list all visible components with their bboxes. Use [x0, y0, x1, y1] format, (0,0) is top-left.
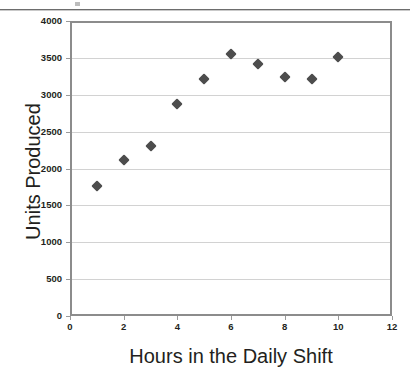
data-point-marker: [145, 140, 156, 151]
data-point-marker: [199, 73, 210, 84]
y-tick-label: 1500: [18, 200, 62, 210]
x-tick-mark: [392, 316, 393, 320]
x-tick-mark: [338, 316, 339, 320]
y-tick-label: 500: [18, 274, 62, 284]
x-tick-mark: [70, 316, 71, 320]
x-tick-label: 2: [109, 322, 139, 332]
x-tick-label: 8: [270, 322, 300, 332]
plot-area: 05001000150020002500300035004000 0246810…: [70, 21, 392, 316]
y-tick-label: 3000: [18, 90, 62, 100]
plot-frame-top-edge: [70, 21, 392, 23]
x-tick-label: 4: [162, 322, 192, 332]
x-tick-mark: [177, 316, 178, 320]
data-point-marker: [306, 74, 317, 85]
gridline: [72, 95, 390, 96]
x-tick-label: 0: [55, 322, 85, 332]
x-tick-label: 6: [216, 322, 246, 332]
x-tick-label: 10: [323, 322, 353, 332]
x-axis-line: [70, 314, 392, 316]
gridline: [72, 279, 390, 280]
x-tick-mark: [124, 316, 125, 320]
y-tick-label: 2500: [18, 127, 62, 137]
x-tick-mark: [285, 316, 286, 320]
y-axis-line: [70, 21, 72, 316]
header-tick-mark: [75, 2, 80, 6]
data-point-marker: [252, 58, 263, 69]
data-point-marker: [91, 181, 102, 192]
gridline: [72, 132, 390, 133]
data-point-marker: [279, 71, 290, 82]
plot-frame-right-edge: [390, 21, 392, 316]
gridline: [72, 205, 390, 206]
x-tick-mark: [231, 316, 232, 320]
y-tick-label: 2000: [18, 164, 62, 174]
y-tick-label: 4000: [18, 16, 62, 26]
x-axis-title: Hours in the Daily Shift: [70, 345, 392, 368]
header-rule-shadow: [0, 10, 410, 11]
gridline: [72, 242, 390, 243]
y-tick-label: 3500: [18, 53, 62, 63]
y-tick-label: 1000: [18, 237, 62, 247]
y-tick-label: 0: [18, 311, 62, 321]
gridline: [72, 169, 390, 170]
data-point-marker: [333, 51, 344, 62]
data-point-marker: [172, 98, 183, 109]
data-point-marker: [118, 154, 129, 165]
scatter-chart-figure: Units Produced 0500100015002000250030003…: [0, 0, 410, 378]
x-tick-label: 12: [377, 322, 407, 332]
